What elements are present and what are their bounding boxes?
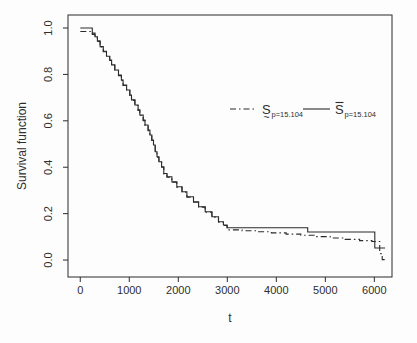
y-tick-label: 0.4	[42, 160, 54, 175]
series-line-dashdot	[80, 32, 387, 260]
x-axis-title: t	[228, 311, 232, 325]
legend: S~p=15.104Sp=15.104	[230, 102, 376, 124]
y-tick-label: 0.0	[42, 252, 54, 267]
x-tick-label: 3000	[215, 284, 239, 296]
legend-label-base: S	[335, 102, 344, 117]
plot-box	[68, 15, 392, 277]
x-tick-label: 6000	[362, 284, 386, 296]
x-tick-label: 2000	[166, 284, 190, 296]
legend-item-dashdot: S~p=15.104	[230, 102, 303, 124]
x-tick-label: 1000	[117, 284, 141, 296]
series-line-solid	[80, 28, 385, 248]
survival-chart: 01000200030004000500060000.00.20.40.60.8…	[0, 0, 417, 343]
x-tick-label: 0	[77, 284, 83, 296]
y-tick-label: 1.0	[42, 20, 54, 35]
legend-label-subscript: p=15.104	[345, 110, 377, 119]
legend-label-subscript: p=15.104	[272, 110, 304, 119]
y-tick-label: 0.6	[42, 113, 54, 128]
legend-accent-tilde: ~	[263, 111, 269, 123]
y-axis: 0.00.20.40.60.81.0	[42, 20, 68, 267]
y-axis-title: Survival function	[15, 102, 29, 190]
x-tick-label: 5000	[313, 284, 337, 296]
legend-item-solid: Sp=15.104	[303, 102, 376, 120]
survival-plot-figure: 01000200030004000500060000.00.20.40.60.8…	[0, 0, 417, 343]
y-tick-label: 0.2	[42, 206, 54, 221]
y-tick-label: 0.8	[42, 67, 54, 82]
x-axis: 0100020003000400050006000	[77, 277, 386, 296]
x-tick-label: 4000	[264, 284, 288, 296]
